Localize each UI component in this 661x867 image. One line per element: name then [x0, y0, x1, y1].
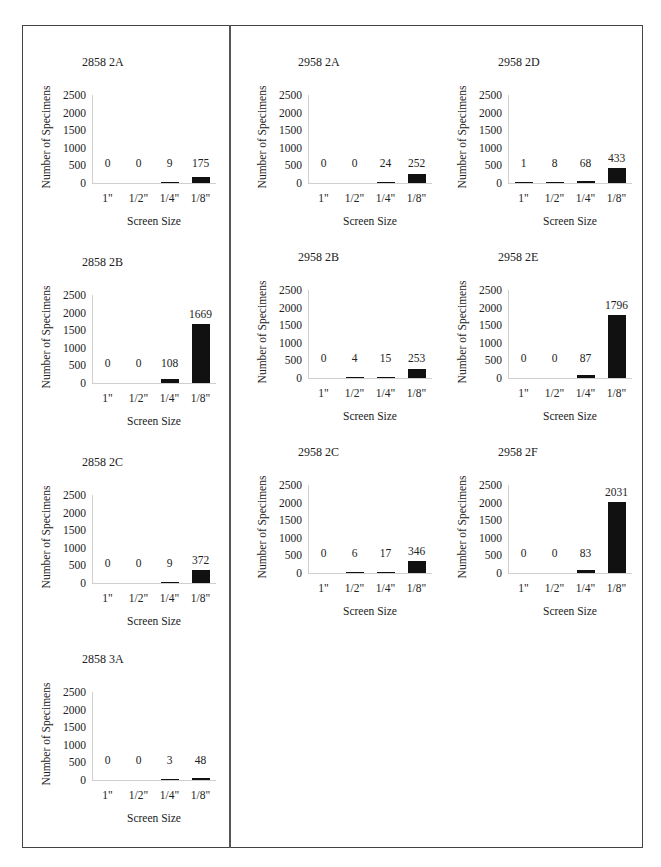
y-axis-line [92, 295, 93, 383]
x-tick-label: 1/8" [184, 392, 218, 404]
y-tick-label: 2500 [279, 284, 302, 296]
y-tick-label: 0 [296, 567, 302, 579]
data-label: 17 [371, 547, 401, 559]
x-tick-label: 1/2" [338, 387, 372, 399]
y-tick-label: 2500 [279, 479, 302, 491]
y-tick-label: 1500 [63, 524, 86, 536]
y-tick-label: 500 [69, 559, 86, 571]
y-axis-ticks: 25002000150010005000 [30, 692, 86, 780]
bar [546, 182, 564, 184]
chart-2958-2d: 2958 2DNumber of Specimens25002000150010… [446, 55, 636, 245]
chart-2958-2c: 2958 2CNumber of Specimens25002000150010… [246, 445, 436, 635]
x-axis-label: Screen Size [92, 615, 216, 627]
bar [192, 324, 210, 383]
x-axis-label: Screen Size [508, 215, 632, 227]
data-label: 0 [124, 357, 154, 369]
x-axis-line [92, 583, 216, 584]
plot-area: 01"01/2"1081/4"16691/8" [92, 295, 216, 383]
data-label: 4 [340, 352, 370, 364]
data-label: 15 [371, 352, 401, 364]
bar [515, 182, 533, 184]
plot-area: 11"81/2"681/4"4331/8" [508, 95, 632, 183]
y-tick-label: 1000 [479, 337, 502, 349]
x-tick-label: 1/4" [369, 387, 403, 399]
x-tick-label: 1/4" [569, 582, 603, 594]
plot-area: 01"01/2"91/4"3721/8" [92, 495, 216, 583]
y-axis-line [308, 95, 309, 183]
y-tick-label: 2500 [63, 289, 86, 301]
y-axis-line [508, 290, 509, 378]
y-tick-label: 2500 [479, 89, 502, 101]
data-label: 253 [402, 352, 432, 364]
y-tick-label: 500 [285, 159, 302, 171]
data-label: 1669 [186, 308, 216, 320]
y-axis-line [92, 95, 93, 183]
x-tick-label: 1/8" [184, 592, 218, 604]
y-tick-label: 2500 [63, 489, 86, 501]
x-tick-label: 1/2" [122, 789, 156, 801]
y-tick-label: 1000 [63, 542, 86, 554]
bar [577, 375, 595, 378]
y-tick-label: 2000 [479, 107, 502, 119]
y-tick-label: 1500 [63, 721, 86, 733]
plot-area: 01"01/2"871/4"17961/8" [508, 290, 632, 378]
x-tick-label: 1/2" [122, 192, 156, 204]
data-label: 0 [309, 547, 339, 559]
x-axis-line [92, 383, 216, 384]
data-label: 9 [155, 557, 185, 569]
y-axis-line [308, 485, 309, 573]
x-tick-label: 1/8" [400, 582, 434, 594]
y-tick-label: 2000 [279, 497, 302, 509]
y-axis-ticks: 25002000150010005000 [446, 290, 502, 378]
bar [161, 582, 179, 584]
data-label: 0 [509, 352, 539, 364]
data-label: 108 [155, 357, 185, 369]
y-tick-label: 1500 [279, 514, 302, 526]
chart-2958-2b: 2958 2BNumber of Specimens25002000150010… [246, 250, 436, 440]
y-axis-line [508, 95, 509, 183]
y-tick-label: 0 [496, 177, 502, 189]
data-label: 24 [371, 157, 401, 169]
y-tick-label: 2500 [63, 686, 86, 698]
bar [161, 779, 179, 781]
bar [377, 572, 395, 574]
y-axis-ticks: 25002000150010005000 [246, 485, 302, 573]
data-label: 2031 [602, 486, 632, 498]
y-tick-label: 0 [80, 774, 86, 786]
y-tick-label: 2500 [479, 479, 502, 491]
x-tick-label: 1" [507, 387, 541, 399]
data-label: 87 [571, 352, 601, 364]
y-tick-label: 0 [80, 177, 86, 189]
x-axis-line [92, 183, 216, 184]
x-axis-label: Screen Size [508, 605, 632, 617]
x-tick-label: 1/2" [538, 582, 572, 594]
data-label: 0 [93, 357, 123, 369]
chart-2858-3a: 2858 3ANumber of Specimens25002000150010… [30, 652, 220, 842]
y-tick-label: 2500 [479, 284, 502, 296]
y-tick-label: 1500 [479, 124, 502, 136]
bar [161, 182, 179, 184]
y-tick-label: 1000 [279, 142, 302, 154]
x-tick-label: 1" [91, 392, 125, 404]
data-label: 0 [93, 557, 123, 569]
chart-2858-2a: 2858 2ANumber of Specimens25002000150010… [30, 55, 220, 245]
plot-area: 01"01/2"241/4"2521/8" [308, 95, 432, 183]
x-tick-label: 1/2" [538, 387, 572, 399]
y-tick-label: 2000 [63, 107, 86, 119]
data-label: 9 [155, 157, 185, 169]
x-axis-line [508, 183, 632, 184]
y-tick-label: 500 [285, 549, 302, 561]
x-axis-line [308, 378, 432, 379]
x-tick-label: 1/8" [184, 789, 218, 801]
chart-title: 2858 3A [82, 652, 272, 667]
data-label: 1796 [602, 299, 632, 311]
x-axis-line [308, 183, 432, 184]
y-tick-label: 0 [296, 372, 302, 384]
y-tick-label: 2000 [479, 302, 502, 314]
data-label: 0 [540, 352, 570, 364]
y-tick-label: 1000 [279, 532, 302, 544]
x-tick-label: 1/4" [153, 392, 187, 404]
bar [377, 182, 395, 184]
x-tick-label: 1" [91, 789, 125, 801]
chart-title: 2958 2D [498, 55, 661, 70]
